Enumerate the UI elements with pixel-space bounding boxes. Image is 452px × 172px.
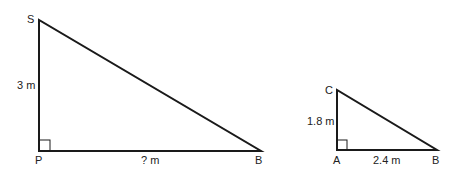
side-label-ab: 2.4 m [373, 155, 401, 166]
triangles-diagram [0, 0, 452, 172]
right-angle-marker [337, 140, 347, 150]
vertex-label-a: A [333, 155, 340, 166]
vertex-label-b2: B [432, 155, 439, 166]
side-label-ca: 1.8 m [307, 116, 335, 127]
right-angle-marker [39, 140, 50, 151]
side-label-sp: 3 m [17, 80, 35, 91]
vertex-label-c: C [325, 85, 333, 96]
side-label-pb: ? m [141, 155, 159, 166]
vertex-label-s: S [27, 14, 34, 25]
vertex-label-p: P [35, 155, 42, 166]
triangle-cab [337, 90, 437, 150]
triangle-spb [39, 20, 261, 151]
vertex-label-b1: B [255, 155, 262, 166]
